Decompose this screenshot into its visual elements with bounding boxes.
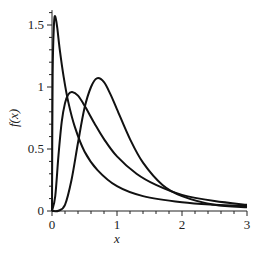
x-axis-label: x: [113, 231, 120, 246]
density-chart: 012300.511.5 x f(x): [0, 0, 257, 255]
density-curves: [52, 16, 247, 211]
x-tick-label: 1: [114, 217, 121, 232]
x-tick-label: 2: [179, 217, 186, 232]
curve-2: [52, 92, 247, 211]
y-tick-label: 1.5: [28, 17, 44, 32]
y-tick-label: 0: [38, 203, 45, 218]
y-tick-label: 1: [38, 79, 45, 94]
x-tick-label: 3: [244, 217, 251, 232]
y-axis-label: f(x): [6, 109, 21, 127]
y-tick-label: 0.5: [28, 141, 44, 156]
x-tick-label: 0: [49, 217, 56, 232]
